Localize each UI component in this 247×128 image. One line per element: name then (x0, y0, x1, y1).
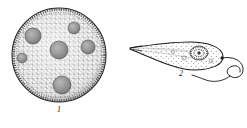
daughter-colony (50, 41, 68, 59)
nucleus (190, 46, 208, 60)
daughter-colony (68, 22, 80, 34)
daughter-colony (53, 76, 71, 94)
plate-artwork (0, 0, 247, 128)
illustration-plate: 1 2 (0, 0, 247, 128)
figure-label-2: 2 (168, 70, 194, 78)
daughter-colony (17, 53, 27, 63)
daughter-colony (25, 28, 41, 44)
daughter-colony (81, 40, 95, 54)
flagellum-trailing (192, 75, 230, 81)
figure-label-1: 1 (46, 106, 72, 114)
figure-1-volvox-colony (12, 8, 106, 102)
flagellum-loop (222, 57, 243, 77)
